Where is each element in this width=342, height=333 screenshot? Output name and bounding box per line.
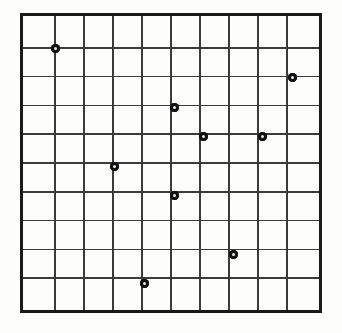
- data-point[interactable]: [170, 191, 179, 200]
- data-point[interactable]: [51, 44, 60, 53]
- plot-area: [20, 13, 322, 313]
- data-point[interactable]: [140, 279, 149, 288]
- figure-container: [0, 0, 342, 333]
- data-point[interactable]: [229, 250, 238, 259]
- data-point[interactable]: [170, 103, 179, 112]
- grid-lines: [23, 16, 319, 310]
- data-point[interactable]: [110, 162, 119, 171]
